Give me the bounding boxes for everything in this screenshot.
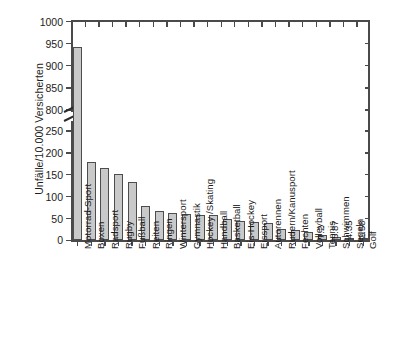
y-tick-right <box>365 109 370 110</box>
y-axis-title: Unfälle/10.000 Versicherten <box>33 29 45 229</box>
top-tick <box>85 22 86 27</box>
top-tick <box>343 22 344 27</box>
top-tick <box>221 22 222 27</box>
top-tick <box>125 22 126 27</box>
x-tick-label: Basketball <box>231 204 242 249</box>
y-tick <box>66 174 71 175</box>
top-tick <box>316 22 317 27</box>
bar-value-label: 5.87 <box>329 221 340 240</box>
y-tick-label: 250 <box>45 125 63 137</box>
x-tick-label: Autorennen <box>272 199 283 249</box>
y-tick-label: 950 <box>45 38 63 50</box>
top-tick <box>275 22 276 27</box>
y-tick-right <box>365 65 370 66</box>
x-tick-label: Rugby <box>123 221 134 249</box>
y-tick-label: 0 <box>57 234 63 246</box>
bar-value-label: 2.58 <box>356 221 367 240</box>
bar <box>73 47 82 240</box>
top-tick <box>356 22 357 27</box>
top-tick <box>302 22 303 27</box>
x-tick-label: Radsport <box>109 210 120 249</box>
bar-chart: Unfälle/10.000 Versicherten 100095090085… <box>0 0 396 351</box>
top-tick <box>193 22 194 27</box>
y-tick <box>66 218 71 219</box>
y-tick-right <box>365 152 370 153</box>
x-tick-label: Gymnastik <box>191 203 202 249</box>
y-tick-label: 800 <box>45 104 63 116</box>
y-tick <box>66 65 71 66</box>
y-tick <box>66 240 71 241</box>
top-tick <box>261 22 262 27</box>
y-tick-right <box>365 87 370 88</box>
bar-value-label: 4.35 <box>343 221 354 240</box>
x-tick-label: Hockey /Skating <box>204 179 215 249</box>
top-tick <box>329 22 330 27</box>
x-tick-label: Eissport <box>258 214 269 249</box>
top-tick <box>166 22 167 27</box>
top-tick <box>248 22 249 27</box>
y-tick-label: 200 <box>45 147 63 159</box>
x-tick-label: Reiten <box>150 221 161 249</box>
x-tick-label: Fußball <box>136 217 147 249</box>
y-tick-label: 900 <box>45 60 63 72</box>
top-tick <box>112 22 113 27</box>
x-tick-label: Ringen <box>163 218 174 249</box>
top-tick <box>234 22 235 27</box>
y-tick <box>66 43 71 44</box>
x-tick-label: Golf <box>367 231 378 249</box>
x-tick-label: Handball <box>218 211 229 249</box>
top-tick <box>288 22 289 27</box>
x-tick-label: Wintersport <box>177 199 188 249</box>
top-tick <box>139 22 140 27</box>
x-tick-label: Boxen <box>95 222 106 249</box>
y-tick-label: 850 <box>45 82 63 94</box>
x-tick-label: Motorrad-Sport <box>82 184 93 249</box>
y-tick-right <box>365 174 370 175</box>
y-tick-label: 1000 <box>40 16 63 28</box>
y-tick-right <box>365 43 370 44</box>
y-tick-right <box>365 218 370 219</box>
top-tick <box>180 22 181 27</box>
y-tick <box>66 152 71 153</box>
y-tick-label: 50 <box>51 213 63 225</box>
y-tick-right <box>365 196 370 197</box>
top-tick <box>207 22 208 27</box>
x-tick-label: Rudern/Kanusport <box>286 170 297 249</box>
y-tick-label: 150 <box>45 169 63 181</box>
y-tick <box>66 21 71 22</box>
x-tick-label: Fechten <box>299 214 310 249</box>
bar-value-label: 7.2 <box>315 226 326 239</box>
y-tick-right <box>365 21 370 22</box>
y-tick-right <box>365 130 370 131</box>
y-tick-label: 100 <box>45 191 63 203</box>
y-tick <box>66 130 71 131</box>
y-tick <box>66 196 71 197</box>
y-tick <box>66 87 71 88</box>
x-tick-label: Eis-Hockey <box>245 200 256 249</box>
top-tick <box>98 22 99 27</box>
top-tick <box>153 22 154 27</box>
x-tick <box>77 241 78 246</box>
